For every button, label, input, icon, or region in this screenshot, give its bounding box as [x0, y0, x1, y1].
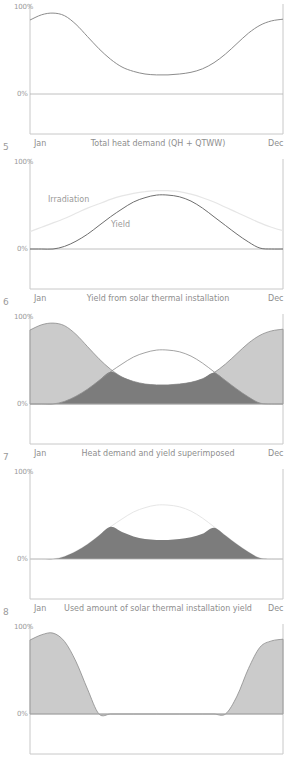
y-tick-0: 0% [17, 90, 28, 98]
chart-solar-yield [0, 155, 287, 310]
y-tick-0: 0% [17, 400, 28, 408]
chart-used-yield [0, 465, 287, 620]
chart-remaining-demand [0, 620, 287, 759]
x-label-end: Dec [268, 604, 283, 613]
chart-caption: Total heat demand (QH + QTWW) [91, 139, 226, 148]
y-tick-100: 100% [14, 623, 33, 631]
remaining-demand-area [30, 633, 283, 716]
y-tick-100: 100% [14, 158, 33, 166]
chart-caption: Yield from solar thermal installation [87, 294, 230, 303]
x-label-start: Jan [34, 139, 46, 148]
chart-superimposed [0, 310, 287, 465]
irradiation-label: Irradiation [48, 195, 89, 204]
x-label-start: Jan [34, 294, 46, 303]
panel-4: 100% 0% Jan Used amount of solar thermal… [0, 465, 287, 620]
x-label-end: Dec [268, 449, 283, 458]
chart-heat-demand [0, 0, 287, 155]
chart-caption: Heat demand and yield superimposed [82, 449, 235, 458]
y-tick-100: 100% [14, 468, 33, 476]
figure-number: 7 [3, 452, 9, 462]
x-label-end: Dec [268, 139, 283, 148]
x-label-end: Dec [268, 294, 283, 303]
x-label-start: Jan [34, 604, 46, 613]
x-label-start: Jan [34, 449, 46, 458]
panel-2: 100% 0% Irradiation Yield Jan Yield from… [0, 155, 287, 310]
panel-1: 100% 0% Jan Total heat demand (QH + QTWW… [0, 0, 287, 155]
panel-5: 100% 0% [0, 620, 287, 759]
used-yield-area [30, 527, 283, 559]
yield-label: Yield [111, 220, 130, 229]
y-tick-100: 100% [14, 313, 33, 321]
figure-number: 8 [3, 607, 9, 617]
y-tick-100: 100% [14, 3, 33, 11]
panel-3: 100% 0% Jan Heat demand and yield superi… [0, 310, 287, 465]
figure-number: 5 [3, 142, 9, 152]
figure-number: 6 [3, 297, 9, 307]
y-tick-0: 0% [17, 555, 28, 563]
y-tick-0: 0% [17, 245, 28, 253]
y-tick-0: 0% [17, 710, 28, 718]
chart-caption: Used amount of solar thermal installatio… [64, 604, 252, 613]
heat-demand-line [30, 13, 283, 75]
